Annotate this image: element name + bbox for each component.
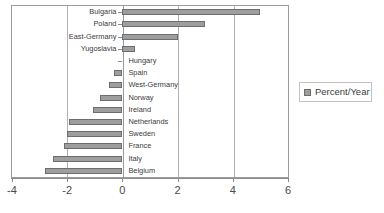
- x-tick-label: 0: [119, 185, 125, 196]
- bar-bulgaria[interactable]: [122, 9, 260, 15]
- category-label-yugoslavia: Yugoslavia: [81, 45, 117, 52]
- category-label-netherlands: Netherlands: [128, 118, 168, 125]
- category-label-norway: Norway: [128, 94, 153, 101]
- bar-norway[interactable]: [100, 95, 122, 101]
- category-label-hungary: Hungary: [128, 57, 156, 64]
- bar-rows: BulgariaPolandEast-GermanyYugoslaviaHung…: [12, 6, 288, 177]
- plot-area: BulgariaPolandEast-GermanyYugoslaviaHung…: [11, 5, 289, 178]
- legend-label: Percent/Year: [315, 87, 370, 97]
- category-label-east-germany: East-Germany: [69, 33, 117, 40]
- bar-row: East-Germany: [12, 30, 288, 42]
- x-tick-label: -4: [7, 185, 17, 196]
- bar-row: Poland: [12, 18, 288, 30]
- category-label-poland: Poland: [93, 21, 116, 28]
- bar-netherlands[interactable]: [69, 119, 123, 125]
- x-tick-label: 2: [175, 185, 181, 196]
- category-label-spain: Spain: [128, 69, 147, 76]
- bar-row: Ireland: [12, 104, 288, 116]
- chart-legend: Percent/Year: [299, 82, 372, 102]
- bar-row: Spain: [12, 67, 288, 79]
- category-label-belgium: Belgium: [128, 167, 155, 174]
- x-tick-mark: [178, 178, 179, 182]
- category-tick: [118, 61, 122, 62]
- bar-row: Netherlands: [12, 116, 288, 128]
- bar-row: Italy: [12, 153, 288, 165]
- category-label-italy: Italy: [128, 155, 142, 162]
- bar-row: Yugoslavia: [12, 43, 288, 55]
- x-tick-mark: [67, 178, 68, 182]
- bar-row: Hungary: [12, 55, 288, 67]
- bar-belgium[interactable]: [45, 168, 122, 174]
- bar-row: France: [12, 140, 288, 152]
- bar-west-germany[interactable]: [109, 82, 123, 88]
- bar-row: Sweden: [12, 128, 288, 140]
- x-tick-mark: [122, 178, 123, 182]
- bar-poland[interactable]: [122, 21, 205, 27]
- x-tick-label: 4: [230, 185, 236, 196]
- legend-swatch-icon: [304, 89, 311, 96]
- bar-italy[interactable]: [53, 156, 122, 162]
- x-tick-label: -2: [62, 185, 72, 196]
- bar-row: Norway: [12, 92, 288, 104]
- category-label-ireland: Ireland: [128, 106, 151, 113]
- x-tick-mark: [288, 178, 289, 182]
- bar-row: West-Germany: [12, 79, 288, 91]
- category-label-sweden: Sweden: [128, 131, 155, 138]
- bar-east-germany[interactable]: [122, 34, 177, 40]
- x-axis-line: [11, 178, 289, 179]
- bar-chart: BulgariaPolandEast-GermanyYugoslaviaHung…: [0, 0, 384, 213]
- bar-row: Belgium: [12, 165, 288, 177]
- bar-row: Bulgaria: [12, 6, 288, 18]
- bar-sweden[interactable]: [67, 131, 122, 137]
- category-label-france: France: [128, 143, 151, 150]
- category-label-bulgaria: Bulgaria: [89, 8, 116, 15]
- bar-ireland[interactable]: [93, 107, 122, 113]
- x-tick-label: 6: [285, 185, 291, 196]
- x-tick-mark: [233, 178, 234, 182]
- bar-spain[interactable]: [114, 70, 122, 76]
- category-label-west-germany: West-Germany: [128, 82, 178, 89]
- bar-yugoslavia[interactable]: [122, 46, 134, 52]
- bar-france[interactable]: [64, 143, 122, 149]
- x-tick-mark: [12, 178, 13, 182]
